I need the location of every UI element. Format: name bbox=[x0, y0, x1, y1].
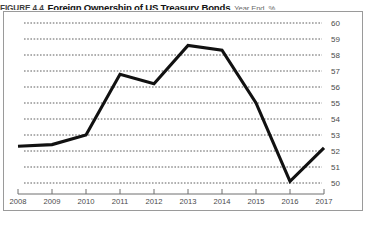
x-axis-tick-label: 2010 bbox=[78, 197, 95, 206]
figure-title: Foreign Ownership of US Treasury Bonds bbox=[48, 2, 231, 10]
y-axis-tick-label: 53 bbox=[331, 131, 340, 140]
y-axis-tick-label: 54 bbox=[331, 115, 340, 124]
y-axis-tick-label: 60 bbox=[331, 19, 340, 28]
x-axis-tick-label: 2014 bbox=[214, 197, 231, 206]
y-axis-tick-label: 59 bbox=[331, 35, 340, 44]
x-axis-tick-label: 2015 bbox=[248, 197, 265, 206]
line-chart: 6059585756555453525150 20082009201020112… bbox=[4, 12, 362, 210]
y-axis-tick-label: 50 bbox=[331, 179, 340, 188]
y-axis-tick-label: 55 bbox=[331, 99, 340, 108]
y-axis-labels: 6059585756555453525150 bbox=[331, 19, 340, 188]
x-axis-tick-label: 2013 bbox=[180, 197, 197, 206]
x-axis-labels: 2008200920102011201220132014201520162017 bbox=[10, 197, 333, 206]
gridlines bbox=[24, 23, 322, 183]
chart-frame: 6059585756555453525150 20082009201020112… bbox=[3, 11, 363, 211]
x-axis-tick-label: 2008 bbox=[10, 197, 27, 206]
x-axis-tick-label: 2011 bbox=[112, 197, 128, 206]
x-axis-tick-label: 2016 bbox=[282, 197, 299, 206]
x-axis-tick-label: 2017 bbox=[316, 197, 333, 206]
x-axis-ticks bbox=[18, 189, 324, 194]
y-axis-tick-label: 58 bbox=[331, 51, 340, 60]
y-axis-tick-label: 51 bbox=[331, 163, 340, 172]
data-series-line bbox=[18, 45, 324, 181]
figure-header: FIGURE 4.4Foreign Ownership of US Treasu… bbox=[0, 0, 367, 10]
y-axis-tick-label: 52 bbox=[331, 147, 340, 156]
y-axis-tick-label: 56 bbox=[331, 83, 340, 92]
x-axis-tick-label: 2012 bbox=[146, 197, 163, 206]
page-bottom-edge bbox=[0, 221, 367, 225]
y-axis-tick-label: 57 bbox=[331, 67, 340, 76]
figure-subtitle: Year End, % bbox=[234, 4, 275, 10]
figure-number: FIGURE 4.4 bbox=[0, 4, 44, 10]
x-axis-tick-label: 2009 bbox=[44, 197, 61, 206]
